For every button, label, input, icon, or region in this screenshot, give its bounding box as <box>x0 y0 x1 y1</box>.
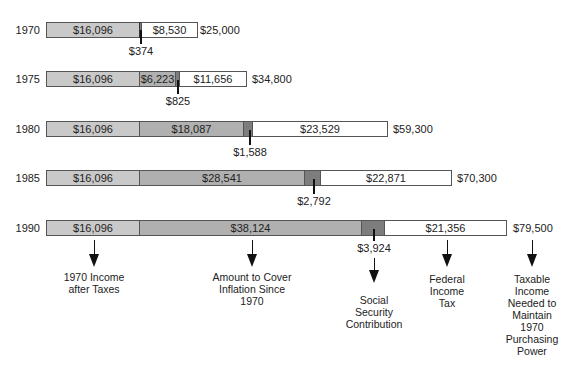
caption-base: 1970 Income after Taxes <box>64 271 125 295</box>
ss-tick-1970 <box>140 30 142 44</box>
ss-label-1970: $374 <box>129 45 153 57</box>
ss-tick-1980 <box>249 130 251 145</box>
segment-base-1975: $16,096 <box>46 71 140 87</box>
segment-base-1970: $16,096 <box>46 22 140 38</box>
total-1980: $59,300 <box>393 121 433 137</box>
segment-inflation-1975: $6,223 <box>139 71 176 87</box>
segment-inflation-1985: $28,541 <box>139 170 305 186</box>
ss-label-1980: $1,588 <box>233 146 267 158</box>
ss-tick-1975 <box>177 80 179 94</box>
segment-tax-1975: $11,656 <box>179 71 247 87</box>
segment-tax-1985: $22,871 <box>320 170 452 186</box>
year-label-1975: 1975 <box>0 71 40 87</box>
ss-label-1975: $825 <box>166 95 190 107</box>
segment-inflation-1980: $18,087 <box>139 121 244 137</box>
ss-label-1985: $2,792 <box>297 195 331 207</box>
ss-tick-1990 <box>373 229 375 241</box>
ss-label-1990: $3,924 <box>357 242 391 254</box>
segment-tax-1970: $8,530 <box>141 22 198 38</box>
year-label-1990: 1990 <box>0 220 40 236</box>
caption-total: Taxable Income Needed to Maintain 1970 P… <box>506 273 559 357</box>
total-1990: $79,500 <box>513 220 553 236</box>
caption-tax: Federal Income Tax <box>429 273 465 309</box>
segment-base-1990: $16,096 <box>46 220 140 236</box>
segment-tax-1980: $23,529 <box>252 121 388 137</box>
segment-inflation-1990: $38,124 <box>139 220 362 236</box>
year-label-1980: 1980 <box>0 121 40 137</box>
segment-base-1985: $16,096 <box>46 170 140 186</box>
caption-inflation: Amount to Cover Inflation Since 1970 <box>213 271 292 307</box>
year-label-1985: 1985 <box>0 170 40 186</box>
total-1985: $70,300 <box>457 170 497 186</box>
segment-tax-1990: $21,356 <box>384 220 507 236</box>
year-label-1970: 1970 <box>0 22 40 38</box>
caption-ss: Social Security Contribution <box>346 294 403 330</box>
segment-base-1980: $16,096 <box>46 121 140 137</box>
ss-tick-1985 <box>313 179 315 194</box>
total-1975: $34,800 <box>252 71 292 87</box>
total-1970: $25,000 <box>200 22 240 38</box>
income-tax-stacked-bar-chart: 1970 $16,096 $8,530 $25,000 $374 1975 $1… <box>0 0 580 369</box>
